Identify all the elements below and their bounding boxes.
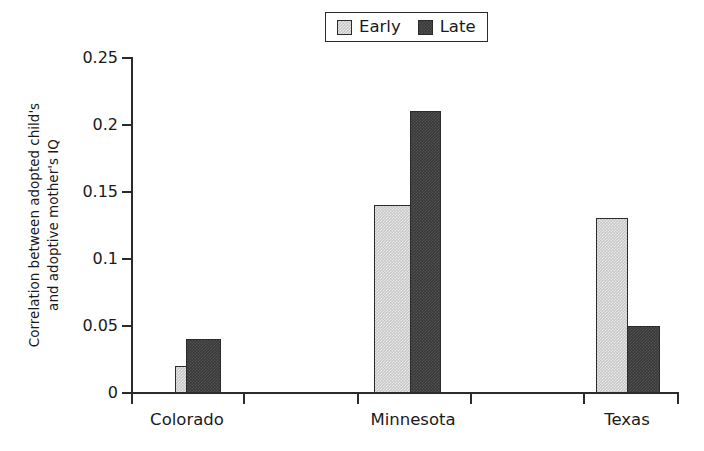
y-tick-label-4: 0.2 <box>93 117 118 133</box>
y-tick-label-1: 0.05 <box>82 318 118 334</box>
y-axis-title-line-1: Correlation between adopted child's <box>26 103 43 347</box>
x-axis-label-colorado: Colorado <box>150 412 224 429</box>
x-axis-label-minnesota: Minnesota <box>370 412 455 429</box>
y-tick-label-0: 0 <box>108 385 118 401</box>
bar-colorado-late <box>186 339 221 393</box>
legend-entry-late: Late <box>418 19 476 36</box>
y-tick-label-3: 0.15 <box>82 184 118 200</box>
bar-chart-figure: Early Late Correlation between adopted c… <box>0 0 704 451</box>
legend-label-early: Early <box>359 19 401 36</box>
y-axis-title: Correlation between adopted child's and … <box>16 57 72 393</box>
y-tick-label-5: 0.25 <box>82 50 118 66</box>
legend-label-late: Late <box>440 19 476 36</box>
legend-entry-early: Early <box>337 19 401 36</box>
y-tick-mark-5 <box>122 57 132 59</box>
x-tick-mark-0 <box>131 394 133 404</box>
x-tick-mark-3 <box>470 394 472 404</box>
y-tick-mark-2 <box>122 258 132 260</box>
bar-texas-early <box>596 218 628 393</box>
x-tick-mark-5 <box>677 394 679 404</box>
x-tick-mark-4 <box>583 394 585 404</box>
bar-minnesota-early <box>374 205 411 393</box>
bar-minnesota-late <box>410 111 441 393</box>
y-axis-line <box>131 57 133 394</box>
x-tick-mark-2 <box>357 394 359 404</box>
chart-legend: Early Late <box>325 12 488 42</box>
x-axis-label-texas: Texas <box>604 412 650 429</box>
bar-texas-late <box>627 326 660 393</box>
legend-swatch-late-icon <box>418 20 433 35</box>
x-tick-mark-1 <box>243 394 245 404</box>
y-tick-mark-3 <box>122 191 132 193</box>
y-tick-mark-1 <box>122 325 132 327</box>
y-axis-title-line-2: and adoptive mother's IQ <box>45 139 62 311</box>
y-tick-mark-4 <box>122 124 132 126</box>
y-tick-label-2: 0.1 <box>93 251 118 267</box>
legend-swatch-early-icon <box>337 20 352 35</box>
